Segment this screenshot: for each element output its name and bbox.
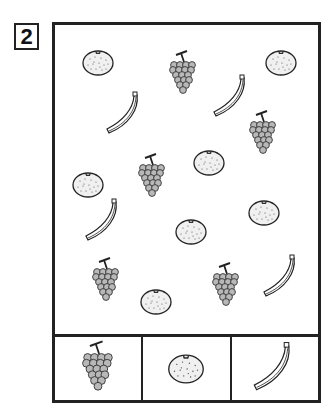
orange-icon [191, 232, 192, 233]
answer-cell-grapes[interactable] [55, 337, 143, 400]
answer-cell-orange[interactable] [143, 337, 231, 400]
grapes-icon [226, 287, 227, 288]
banana-icon [104, 222, 105, 223]
orange-icon [264, 213, 265, 214]
banana-icon [275, 369, 276, 370]
orange-icon [98, 63, 99, 64]
grapes-icon [183, 75, 184, 76]
banana-icon [282, 278, 283, 279]
orange-icon [88, 185, 89, 186]
banana-icon [232, 98, 233, 99]
grapes-icon [152, 178, 153, 179]
answer-key-row [52, 334, 321, 403]
worksheet-number: 2 [14, 23, 39, 50]
banana-icon [125, 115, 126, 116]
orange-icon [186, 369, 187, 370]
orange-icon [156, 302, 157, 303]
grapes-icon [106, 282, 107, 283]
orange-icon [209, 163, 210, 164]
grapes-icon [98, 369, 99, 370]
orange-icon [281, 63, 282, 64]
grapes-icon [263, 135, 264, 136]
answer-cell-banana[interactable] [232, 337, 318, 400]
